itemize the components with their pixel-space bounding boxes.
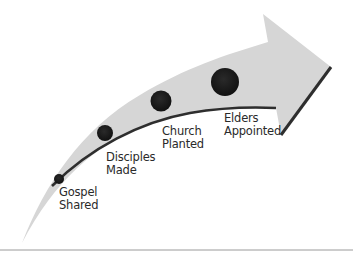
label-church-planted: Church Planted: [162, 125, 204, 151]
label-line: Shared: [59, 199, 98, 212]
step-dot-elders: [211, 68, 239, 96]
step-dot-gospel: [54, 174, 64, 184]
label-line: Appointed: [224, 125, 281, 138]
label-disciples-made: Disciples Made: [106, 151, 155, 177]
label-line: Made: [106, 164, 155, 177]
step-dot-church: [151, 91, 172, 112]
step-dot-disciples: [97, 125, 113, 141]
label-elders-appointed: Elders Appointed: [224, 112, 281, 138]
label-line: Planted: [162, 138, 204, 151]
label-gospel-shared: Gospel Shared: [59, 186, 98, 212]
